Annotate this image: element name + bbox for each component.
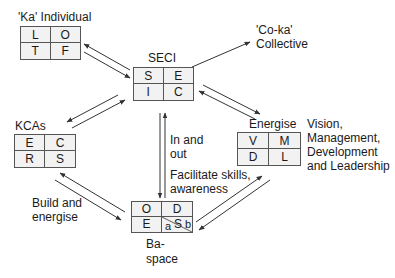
ka-grid: L O T F xyxy=(20,26,81,60)
ka-cell-t: T xyxy=(21,43,51,59)
kcas-grid: E C R S xyxy=(14,134,76,168)
label-facilitate-1: Facilitate skills, xyxy=(170,169,251,182)
label-in-and-out-2: out xyxy=(170,148,187,161)
ba-title-line2: space xyxy=(146,253,178,266)
energise-cell-d: D xyxy=(238,149,269,165)
seci-cell-i: I xyxy=(134,84,164,100)
label-build-1: Build and xyxy=(32,197,82,210)
ba-cell-o: O xyxy=(132,202,162,217)
kcas-cell-r: R xyxy=(15,151,45,167)
ka-title: 'Ka' Individual xyxy=(18,11,91,24)
ka-cell-l: L xyxy=(21,27,51,43)
energise-title: Energise xyxy=(249,118,296,131)
seci-grid: S E I C xyxy=(133,67,194,101)
label-build-2: energise xyxy=(32,211,78,224)
ba-title-line1: Ba- xyxy=(146,238,165,251)
label-in-and-out-1: In and xyxy=(170,134,203,147)
ka-cell-o: O xyxy=(51,27,81,43)
ba-sub-a: a xyxy=(165,220,171,232)
kcas-cell-s: S xyxy=(45,151,75,167)
energise-cell-v: V xyxy=(238,133,269,149)
energise-desc-2: Management, xyxy=(307,132,380,145)
arrow-energise-to-seci xyxy=(199,91,255,119)
kcas-cell-c: C xyxy=(45,135,75,151)
arrow-ka-to-seci xyxy=(84,52,130,78)
arrow-seci-to-kcas xyxy=(67,95,118,122)
seci-cell-c: C xyxy=(164,84,194,100)
energise-cell-m: M xyxy=(269,133,300,149)
energise-grid: V M D L xyxy=(237,132,301,166)
ba-cell-s-split: S a b xyxy=(162,217,192,232)
kcas-cell-e: E xyxy=(15,135,45,151)
energise-desc-3: Development xyxy=(307,146,378,159)
seci-cell-e: E xyxy=(164,68,194,84)
coka-title-line2: Collective xyxy=(256,38,308,51)
arrow-seci-to-energise xyxy=(203,85,260,114)
ba-cell-e: E xyxy=(132,217,162,232)
energise-cell-l: L xyxy=(269,149,300,165)
ba-cell-d: D xyxy=(162,202,192,217)
seci-title: SECI xyxy=(148,52,176,65)
arrow-kcas-to-seci xyxy=(72,100,125,128)
coka-title-line1: 'Co-ka' xyxy=(256,24,293,37)
label-facilitate-2: awareness xyxy=(170,183,228,196)
ba-cell-s: S xyxy=(174,217,182,231)
seci-cell-s: S xyxy=(134,68,164,84)
arrow-seci-to-coka xyxy=(192,42,250,67)
ba-sub-b: b xyxy=(185,218,191,230)
energise-desc-1: Vision, xyxy=(307,118,343,131)
ba-grid: O D E S a b xyxy=(131,201,193,233)
diagram-canvas: 'Ka' Individual L O T F 'Co-ka' Collecti… xyxy=(0,0,395,278)
arrow-seci-to-ka xyxy=(84,44,130,70)
kcas-title: KCAs xyxy=(15,120,46,133)
ka-cell-f: F xyxy=(51,43,81,59)
energise-desc-4: and Leadership xyxy=(307,160,390,173)
